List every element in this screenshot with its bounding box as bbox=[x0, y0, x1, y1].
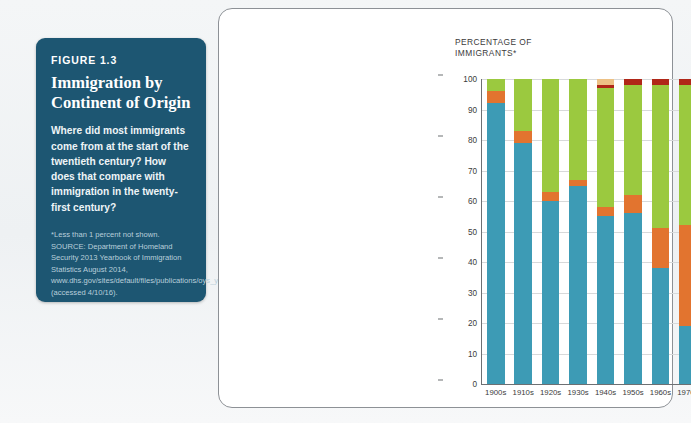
bar-segment-1930s-americas[interactable] bbox=[569, 79, 587, 180]
figure-number-label: FIGURE 1.3 bbox=[51, 54, 191, 66]
bar-1970s[interactable] bbox=[679, 79, 691, 384]
bar-series-group bbox=[482, 79, 691, 384]
bar-segment-1960s-europe[interactable] bbox=[652, 268, 670, 384]
bar-segment-1970s-asia[interactable] bbox=[679, 225, 691, 326]
x-tick-label-1920s: 1920s bbox=[540, 388, 561, 397]
bar-1960s[interactable] bbox=[652, 79, 670, 384]
x-tick-label-1900s: 1900s bbox=[485, 388, 506, 397]
figure-callout-panel: FIGURE 1.3 Immigration by Continent of O… bbox=[36, 38, 206, 302]
bar-segment-1960s-asia[interactable] bbox=[652, 228, 670, 268]
y-axis-tick-labels: 0102030405060708090100 bbox=[443, 79, 477, 384]
bar-segment-1950s-europe[interactable] bbox=[624, 213, 642, 384]
bar-1900s[interactable] bbox=[487, 79, 505, 384]
x-tick-label-1970s: 1970s bbox=[677, 388, 691, 397]
bar-segment-1900s-asia[interactable] bbox=[487, 91, 505, 103]
bar-segment-1950s-americas[interactable] bbox=[624, 85, 642, 195]
y-tick-label-10: 10 bbox=[443, 349, 477, 358]
bar-segment-1920s-americas[interactable] bbox=[542, 79, 560, 192]
bar-1930s[interactable] bbox=[569, 79, 587, 384]
x-tick-label-1930s: 1930s bbox=[567, 388, 588, 397]
plot-area bbox=[482, 79, 691, 384]
bar-segment-1960s-americas[interactable] bbox=[652, 85, 670, 228]
y-tick-mark-100 bbox=[438, 75, 443, 76]
bar-segment-1900s-europe[interactable] bbox=[487, 103, 505, 384]
y-tick-label-0: 0 bbox=[443, 380, 477, 389]
bar-segment-1920s-asia[interactable] bbox=[542, 192, 560, 201]
y-tick-label-40: 40 bbox=[443, 258, 477, 267]
bar-segment-1910s-europe[interactable] bbox=[514, 143, 532, 384]
bar-1950s[interactable] bbox=[624, 79, 642, 384]
y-tick-mark-60 bbox=[438, 319, 443, 320]
x-tick-label-1950s: 1950s bbox=[622, 388, 643, 397]
gridline-0 bbox=[482, 384, 691, 385]
y-tick-mark-70 bbox=[438, 258, 443, 259]
y-tick-label-70: 70 bbox=[443, 166, 477, 175]
y-tick-mark-80 bbox=[438, 197, 443, 198]
y-tick-label-60: 60 bbox=[443, 197, 477, 206]
bar-segment-1930s-europe[interactable] bbox=[569, 186, 587, 384]
bar-segment-1950s-asia[interactable] bbox=[624, 195, 642, 213]
bar-segment-1970s-americas[interactable] bbox=[679, 85, 691, 225]
bar-segment-1910s-asia[interactable] bbox=[514, 131, 532, 143]
bar-1940s[interactable] bbox=[597, 79, 615, 384]
x-tick-label-1940s: 1940s bbox=[595, 388, 616, 397]
x-tick-label-1960s: 1960s bbox=[650, 388, 671, 397]
y-tick-mark-90 bbox=[438, 136, 443, 137]
y-tick-label-100: 100 bbox=[443, 75, 477, 84]
bar-segment-1900s-americas[interactable] bbox=[487, 79, 505, 91]
bar-segment-1920s-europe[interactable] bbox=[542, 201, 560, 384]
y-tick-label-30: 30 bbox=[443, 288, 477, 297]
x-tick-label-1910s: 1910s bbox=[513, 388, 534, 397]
figure-source-note: *Less than 1 percent not shown. SOURCE: … bbox=[51, 229, 191, 298]
y-tick-label-90: 90 bbox=[443, 105, 477, 114]
bar-segment-1970s-europe[interactable] bbox=[679, 326, 691, 384]
figure-title: Immigration by Continent of Origin bbox=[51, 73, 191, 113]
figure-question-text: Where did most immigrants come from at t… bbox=[51, 123, 191, 215]
y-tick-label-80: 80 bbox=[443, 136, 477, 145]
bar-1910s[interactable] bbox=[514, 79, 532, 384]
bar-1920s[interactable] bbox=[542, 79, 560, 384]
y-tick-mark-50 bbox=[438, 380, 443, 381]
y-tick-label-50: 50 bbox=[443, 227, 477, 236]
y-axis-title: PERCENTAGE OF IMMIGRANTS* bbox=[455, 37, 532, 60]
bar-segment-1940s-asia[interactable] bbox=[597, 207, 615, 216]
bar-segment-1910s-americas[interactable] bbox=[514, 79, 532, 131]
bar-segment-1940s-americas[interactable] bbox=[597, 88, 615, 207]
bar-segment-1940s-europe[interactable] bbox=[597, 216, 615, 384]
page-background: FIGURE 1.3 Immigration by Continent of O… bbox=[0, 0, 691, 423]
y-tick-label-20: 20 bbox=[443, 319, 477, 328]
x-axis-tick-labels: 1900s1910s1920s1930s1940s1950s1960s1970s… bbox=[482, 388, 691, 402]
chart-card: PERCENTAGE OF IMMIGRANTS* 01020304050607… bbox=[218, 8, 673, 408]
